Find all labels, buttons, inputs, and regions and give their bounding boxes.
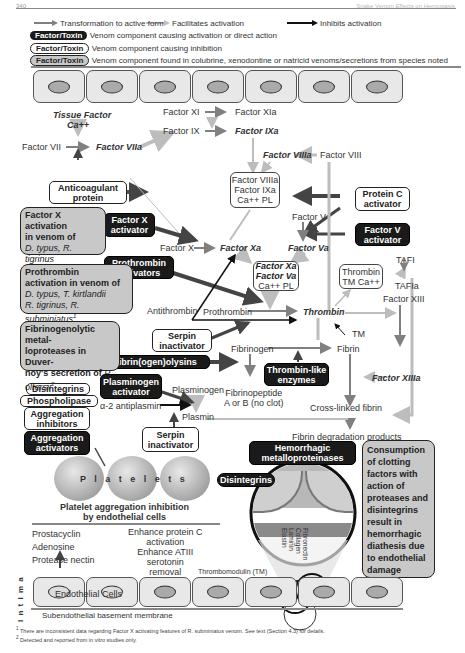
tenase-line: Ca++ PL	[237, 195, 273, 205]
basement-membrane-label: Subendothelial basement membrane	[42, 611, 173, 621]
aggregation-activators[interactable]: Aggregationactivators	[24, 431, 90, 455]
factor-xiiia: Factor XIIIa	[372, 373, 421, 383]
phospholipase[interactable]: Phospholipase	[20, 395, 98, 407]
tenase-complex: Factor VIIIa Factor IXa Ca++ PL	[230, 172, 280, 208]
factor-xa: Factor Xa	[220, 243, 261, 253]
protein-c-activator[interactable]: Protein Cactivator	[355, 187, 410, 211]
factor-v: Factor V	[292, 212, 326, 222]
nucleus-icon	[260, 586, 282, 599]
thrombin: Thrombin	[303, 307, 345, 317]
fibrinogen: Fibrinogen	[231, 344, 274, 354]
endothelial-cells-label: Endothelial Cells	[55, 589, 122, 599]
antithrombin: Antithrombin	[147, 306, 198, 316]
thrombin-tm-line: Thrombin	[342, 267, 380, 277]
serpin-inactivator-2[interactable]: Serpininactivator	[142, 427, 199, 452]
tenase-line: Factor VIIIa	[232, 175, 279, 185]
aggregation-inhibitors[interactable]: Aggregationinhibitors	[24, 407, 90, 430]
factor-x-activator[interactable]: Factor Xactivator	[104, 213, 155, 237]
hemorrhagic-metalloproteinases[interactable]: Hemorrhagicmetalloproteinases	[249, 441, 356, 465]
fibrin: Fibrin	[337, 344, 360, 354]
prothrombinase-line: Factor Va	[256, 271, 297, 281]
factor-va: Factor Va	[288, 243, 329, 253]
intima-label: I n t i m a	[16, 576, 26, 622]
thrombin-tm-complex: Thrombin TM Ca++	[339, 264, 383, 289]
tissue-factor-ca: Ca++	[67, 120, 89, 130]
fibrinopeptide-line: A or B (no clot)	[224, 398, 284, 408]
tafi: TAFI	[396, 255, 415, 265]
disintegrins-2[interactable]: Disintegrins	[217, 473, 275, 487]
factor-v-activator[interactable]: Factor Vactivator	[355, 223, 410, 246]
inhibition-right-list: Enhance protein C activation Enhance ATI…	[128, 527, 203, 577]
tm-label: TM	[352, 329, 365, 339]
tissue-factor: Tissue Factor	[53, 110, 111, 120]
endothelial-cell	[298, 577, 350, 607]
prothrombinase-complex: Factor Xa Factor Va Ca++ PL	[253, 261, 299, 291]
alpha2-antiplasmin: α-2 antiplasmin	[100, 401, 161, 411]
nucleus-icon	[313, 586, 335, 599]
factor-ixa: Factor IXa	[235, 126, 279, 136]
plasmin: Plasmin	[182, 412, 214, 422]
factor-xiii: Factor XIII	[383, 294, 425, 304]
fibrinopeptide-line: Fibrinopeptide	[224, 388, 284, 398]
factor-vii: Factor VII	[22, 142, 61, 152]
platelet-inhibition-title: Platelet aggregation inhibition by endot…	[60, 502, 189, 522]
factor-xia: Factor XIa	[235, 107, 277, 117]
thrombin-tm-line: TM Ca++	[342, 277, 380, 287]
plasminogen: Plasminogen	[172, 385, 224, 395]
factor-xi: Factor XI	[163, 107, 200, 117]
factor-viiia: Factor VIIIa	[263, 150, 312, 160]
basement-membrane-line	[31, 608, 403, 610]
tenase-line: Factor IXa	[234, 185, 276, 195]
tafia: TAFIa	[395, 281, 419, 291]
prothrombinase-line: Factor Xa	[255, 261, 296, 271]
fibrinogenolytic-metalloproteases: Fibrinogenolytic metal- loproteases in D…	[20, 321, 120, 371]
nucleus-icon	[154, 586, 176, 599]
thrombomodulin-label: Thrombomodulin (TM)	[198, 567, 267, 577]
prothrombin: Prothrombin	[203, 307, 252, 317]
cross-linked-fibrin: Cross-linked fibrin	[310, 403, 382, 413]
factor-x: Factor X	[160, 243, 194, 253]
prothrombin-activation-species: Prothrombin activation in venom of D. ty…	[20, 264, 133, 314]
factor-viii: Factor VIII	[320, 150, 362, 160]
endothelial-cell	[351, 577, 403, 607]
nucleus-icon	[207, 586, 229, 599]
endothelial-cell	[192, 577, 244, 607]
thrombin-like-enzymes[interactable]: Thrombin-likeenzymes	[264, 363, 329, 386]
inhibition-left-list: Prostacyclin Adenosine Protease nectin	[32, 528, 95, 567]
prothrombinase-line: Ca++ PL	[258, 281, 294, 291]
footnote-2: 2 Detected and reported from in vitro st…	[16, 634, 137, 644]
fibrinopeptide: Fibrinopeptide A or B (no clot)	[224, 388, 284, 408]
serpin-inactivator-1[interactable]: Serpininactivator	[152, 329, 212, 352]
platelets-label: P l a t e l e t s	[80, 474, 188, 484]
factor-ix: Factor IX	[163, 126, 200, 136]
nucleus-icon	[366, 586, 388, 599]
consumption-box: Consumption of clotting factors with act…	[362, 440, 435, 578]
matrix-elastin: Elastin	[279, 528, 289, 548]
endothelial-cell	[139, 577, 191, 607]
anticoagulant-protein[interactable]: Anticoagulantprotein	[49, 181, 127, 204]
factor-x-activation-species: Factor X activation in venom of D. typus…	[20, 207, 106, 255]
factor-viia: Factor VIIa	[96, 142, 142, 152]
endothelial-cell	[245, 577, 297, 607]
